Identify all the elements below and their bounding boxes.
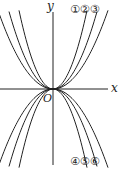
y-axis-label: y	[47, 0, 54, 12]
parabola-diagram: y x O ①②③ ④⑤⑥	[0, 0, 123, 173]
origin-label: O	[43, 93, 52, 104]
parabola-curve-3	[0, 10, 108, 89]
curve-labels-bottom: ④⑤⑥	[70, 156, 100, 167]
plot-area	[0, 0, 123, 173]
curve-labels-top: ①②③	[70, 4, 100, 15]
x-axis-label: x	[111, 82, 118, 94]
